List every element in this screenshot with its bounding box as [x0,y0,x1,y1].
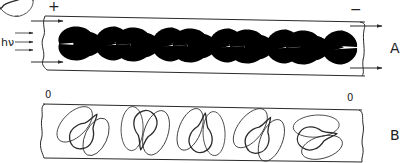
tube-a-top-wall [45,16,365,22]
panel-b-label: B [390,128,400,142]
negative-electrode-label: − [350,2,362,16]
panel-a-label: A [390,41,400,55]
positive-electrode-label: + [48,0,60,13]
light-arrows [15,33,33,50]
cell-b-2 [114,102,175,159]
right-electrode-zero-label: 0 [347,93,353,103]
cell-b-1 [48,96,120,163]
tube-b-right-edge [359,110,363,162]
tube-a-bottom-wall [47,70,365,76]
cell-b-5 [290,109,346,163]
tube-b-left-edge [40,104,45,158]
diagram-canvas [0,0,402,163]
left-electrode-zero-label: 0 [45,90,51,100]
cell-b-3 [171,103,233,159]
tube-b-bottom-wall [44,158,362,162]
light-label: hν [1,37,14,48]
